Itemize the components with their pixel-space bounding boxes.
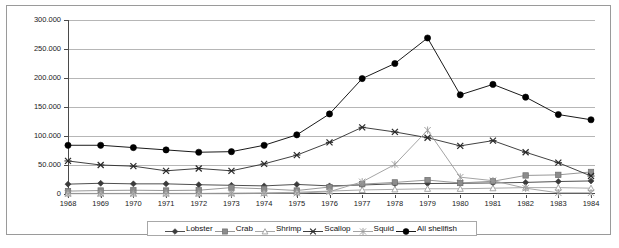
legend-label: Shrimp [275,223,303,234]
x-axis-tick-label: 1972 [184,199,214,208]
y-axis-tick-label: 50.000 [0,161,61,169]
x-icon [303,223,323,234]
circle-icon [396,223,416,234]
gridline [69,20,595,21]
data-point-x [310,229,317,235]
x-axis-tick [101,195,102,198]
x-axis-tick [133,195,134,198]
x-axis-tick [428,195,429,198]
y-axis-tick-label: 250.000 [0,45,61,53]
legend-item-crab[interactable]: Crab [215,222,255,235]
x-axis-tick-label: 1975 [282,199,312,208]
x-axis-tick-label: 1971 [151,199,181,208]
asterisk-icon [353,223,373,234]
x-axis-tick [166,195,167,198]
diamond-icon [165,223,185,234]
x-axis-tick-label: 1981 [478,199,508,208]
chart-figure: 300.000250.000200.000150.000100.00050.00… [0,0,619,248]
y-axis-tick-label: 300.000 [0,16,61,24]
legend-item-lobster[interactable]: Lobster [165,222,215,235]
x-axis-tick-label: 1982 [511,199,541,208]
gridline [69,165,595,166]
x-axis-tick [297,195,298,198]
x-axis-tick [264,195,265,198]
y-axis-tick-label: 150.000 [0,103,61,111]
chart-legend: LobsterCrabShrimpScallopSquidAll shellfi… [147,221,477,236]
legend-label: All shellfish [416,223,459,234]
y-axis-tick-label: 100.000 [0,132,61,140]
x-axis-tick [68,195,69,198]
legend-item-shrimp[interactable]: Shrimp [255,222,303,235]
gridline [69,49,595,50]
x-axis-tick [591,195,592,198]
y-axis-tick-label: 0 [0,190,61,198]
legend-item-all-shellfish[interactable]: All shellfish [396,222,459,235]
legend-item-squid[interactable]: Squid [353,222,396,235]
gridline [69,136,595,137]
x-axis-tick [231,195,232,198]
x-axis-tick-label: 1976 [315,199,345,208]
x-axis-tick-label: 1969 [86,199,116,208]
gridline [69,107,595,108]
data-point-circle [403,229,409,235]
triangle-icon [255,223,275,234]
data-point-diamond [172,229,178,235]
legend-label: Scallop [323,223,352,234]
x-axis-tick [330,195,331,198]
square-icon [215,223,235,234]
plot-area [68,20,595,194]
x-axis-tick-label: 1977 [347,199,377,208]
x-axis-tick-label: 1974 [249,199,279,208]
legend-label: Lobster [185,223,215,234]
legend-label: Squid [373,223,396,234]
x-axis-tick-label: 1980 [445,199,475,208]
x-axis-tick-label: 1968 [53,199,83,208]
x-axis-tick-label: 1973 [216,199,246,208]
x-axis-tick [199,195,200,198]
x-axis-tick-label: 1979 [413,199,443,208]
x-axis-tick [395,195,396,198]
x-axis-tick [558,195,559,198]
data-point-square [222,229,227,234]
x-axis-tick-label: 1978 [380,199,410,208]
x-axis-tick-label: 1970 [118,199,148,208]
legend-item-scallop[interactable]: Scallop [303,222,352,235]
gridline [69,78,595,79]
x-axis-tick [493,195,494,198]
x-axis-tick-label: 1983 [543,199,573,208]
x-axis-tick-label: 1984 [576,199,606,208]
x-axis-tick [526,195,527,198]
legend-label: Crab [235,223,255,234]
x-axis-tick [460,195,461,198]
x-axis-tick [362,195,363,198]
y-axis-tick-label: 200.000 [0,74,61,82]
